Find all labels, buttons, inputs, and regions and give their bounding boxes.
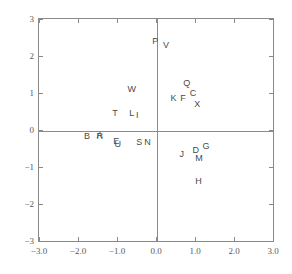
y-tick-right <box>269 241 273 242</box>
y-tick-right <box>269 130 273 131</box>
y-tick-right <box>269 56 273 57</box>
data-point-g: G <box>202 141 209 150</box>
data-point-t: T <box>112 108 118 117</box>
y-tick-right <box>269 204 273 205</box>
y-tick-label: 1 <box>14 88 34 98</box>
x-tick-label: −1.0 <box>109 246 125 256</box>
x-tick-bottom <box>195 237 196 241</box>
y-tick-left <box>39 56 43 57</box>
x-tick-label: 3.0 <box>267 246 278 256</box>
plot-frame: PVQWCKFXTLIBRAEUSNGDJMH <box>38 18 274 242</box>
y-tick-label: 2 <box>14 51 34 61</box>
x-tick-label: 0.0 <box>150 246 161 256</box>
x-tick-top <box>117 19 118 23</box>
x-tick-bottom <box>78 237 79 241</box>
x-tick-label: 1.0 <box>189 246 200 256</box>
y-tick-right <box>269 93 273 94</box>
data-point-i: I <box>136 110 139 119</box>
y-tick-right <box>269 19 273 20</box>
x-tick-label: 2.0 <box>228 246 239 256</box>
x-tick-top <box>78 19 79 23</box>
x-tick-bottom <box>156 237 157 241</box>
data-point-a: A <box>97 131 103 140</box>
data-point-n: N <box>144 138 151 147</box>
scatter-plot: PVQWCKFXTLIBRAEUSNGDJMH −3.0−2.0−1.00.01… <box>0 0 292 274</box>
data-point-h: H <box>195 177 202 186</box>
y-tick-left <box>39 241 43 242</box>
x-tick-top <box>39 19 40 23</box>
y-tick-left <box>39 93 43 94</box>
data-point-p: P <box>152 36 158 45</box>
data-point-u: U <box>115 140 122 149</box>
y-tick-right <box>269 167 273 168</box>
data-point-s: S <box>136 138 142 147</box>
y-tick-label: −3 <box>14 236 34 246</box>
data-point-k: K <box>171 93 177 102</box>
y-tick-label: −1 <box>14 162 34 172</box>
x-tick-top <box>273 19 274 23</box>
x-tick-bottom <box>117 237 118 241</box>
data-point-l: L <box>129 108 134 117</box>
data-point-j: J <box>179 150 184 159</box>
y-tick-label: −2 <box>14 199 34 209</box>
x-tick-top <box>234 19 235 23</box>
data-point-m: M <box>195 154 203 163</box>
data-point-x: X <box>194 99 200 108</box>
data-point-w: W <box>128 84 137 93</box>
y-tick-label: 3 <box>14 14 34 24</box>
data-point-b: B <box>84 132 90 141</box>
y-tick-left <box>39 130 43 131</box>
data-point-f: F <box>180 93 186 102</box>
x-tick-label: −2.0 <box>70 246 86 256</box>
y-tick-left <box>39 204 43 205</box>
x-tick-bottom <box>234 237 235 241</box>
data-point-c: C <box>190 88 197 97</box>
x-tick-top <box>156 19 157 23</box>
y-tick-label: 0 <box>14 125 34 135</box>
y-axis-zero-line <box>157 19 158 241</box>
y-tick-left <box>39 167 43 168</box>
x-tick-label: −3.0 <box>31 246 47 256</box>
data-point-v: V <box>163 40 169 49</box>
y-tick-left <box>39 19 43 20</box>
x-tick-top <box>195 19 196 23</box>
